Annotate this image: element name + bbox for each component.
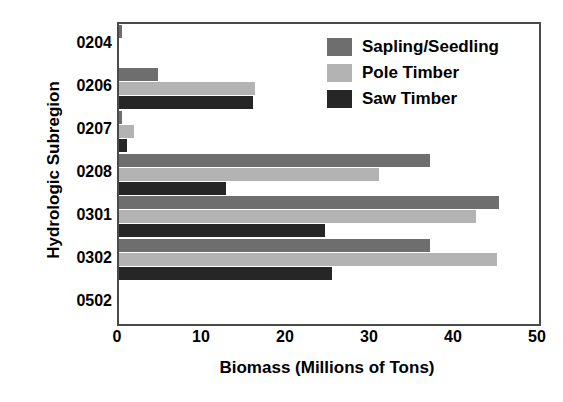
y-axis-tick-labels: 0204020602070208030103020502 (38, 22, 112, 322)
legend-item: Sapling/Seedling (327, 36, 499, 58)
bar (119, 182, 226, 195)
legend-label: Pole Timber (362, 64, 459, 82)
legend-item: Pole Timber (327, 62, 499, 84)
bar (119, 139, 127, 152)
y-axis-tick-label: 0302 (38, 249, 112, 267)
bar-group (119, 239, 539, 280)
bar-group (119, 154, 539, 195)
bar (119, 253, 497, 266)
y-axis-tick-label: 0208 (38, 163, 112, 181)
legend-swatch-icon (327, 90, 352, 108)
bar-group (119, 282, 539, 323)
plot-frame: Sapling/SeedlingPole TimberSaw Timber (117, 22, 541, 326)
bar (119, 96, 253, 109)
x-axis-tick-label: 40 (444, 328, 462, 346)
x-axis-tick-label: 30 (360, 328, 378, 346)
y-axis-tick-label: 0502 (38, 292, 112, 310)
x-axis-title: Biomass (Millions of Tons) (117, 358, 537, 378)
legend-label: Saw Timber (362, 90, 457, 108)
chart-legend: Sapling/SeedlingPole TimberSaw Timber (327, 36, 499, 110)
y-axis-tick-label: 0204 (38, 34, 112, 52)
y-axis-tick-label: 0301 (38, 206, 112, 224)
bar (119, 239, 430, 252)
bar (119, 224, 325, 237)
bar (119, 210, 476, 223)
bar (119, 154, 430, 167)
bar (119, 68, 158, 81)
legend-label: Sapling/Seedling (362, 38, 499, 56)
x-axis-tick-label: 10 (192, 328, 210, 346)
legend-item: Saw Timber (327, 88, 499, 110)
bar (119, 267, 332, 280)
bar-chart: Hydrologic Subregion 0204020602070208030… (0, 0, 563, 402)
bar (119, 196, 499, 209)
y-axis-tick-label: 0207 (38, 120, 112, 138)
legend-swatch-icon (327, 38, 352, 56)
legend-swatch-icon (327, 64, 352, 82)
x-axis-tick-labels: 01020304050 (117, 328, 537, 350)
x-axis-tick-label: 20 (276, 328, 294, 346)
bar-group (119, 111, 539, 152)
bar-group (119, 196, 539, 237)
bar (119, 125, 134, 138)
y-axis-tick-label: 0206 (38, 77, 112, 95)
bar (119, 168, 379, 181)
x-axis-tick-label: 0 (113, 328, 122, 346)
x-axis-tick-label: 50 (528, 328, 546, 346)
bar (119, 25, 122, 38)
bar (119, 82, 255, 95)
bar (119, 111, 122, 124)
